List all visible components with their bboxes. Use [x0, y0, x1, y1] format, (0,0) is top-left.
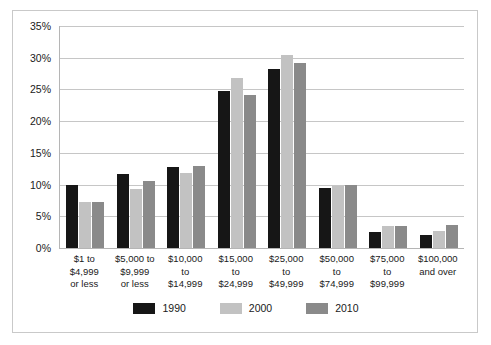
bar-1990[interactable] — [369, 232, 381, 248]
legend-item-2010[interactable]: 2010 — [306, 303, 358, 314]
plot-area — [59, 26, 464, 249]
x-axis-label-line: $4,999 — [60, 266, 109, 279]
bar-2000[interactable] — [130, 189, 142, 248]
legend-label: 2000 — [249, 303, 272, 314]
x-axis-category-label: $5,000 to$9,999or less — [110, 253, 161, 305]
y-axis: 0%5%10%15%20%25%30%35% — [13, 11, 57, 254]
x-axis-label-line: or less — [60, 278, 109, 291]
bar-1990[interactable] — [319, 188, 331, 248]
y-axis-tick-label: 15% — [13, 148, 51, 159]
bar-2010[interactable] — [193, 166, 205, 248]
x-axis-category-label: $100,000and over — [413, 253, 464, 305]
x-axis-label-line: to — [363, 266, 412, 279]
legend-item-1990[interactable]: 1990 — [133, 303, 185, 314]
x-axis-label-line: $1 to — [60, 253, 109, 266]
bar-group — [212, 26, 263, 248]
x-axis-label-line: $50,000 — [313, 253, 362, 266]
bar-group — [363, 26, 414, 248]
x-axis-label-line: $15,000 — [212, 253, 261, 266]
x-axis-label-line: $24,999 — [212, 278, 261, 291]
bar-group — [414, 26, 465, 248]
y-axis-tick-label: 10% — [13, 179, 51, 190]
x-axis-label-line: to — [212, 266, 261, 279]
x-axis-label-line: $9,999 — [111, 266, 160, 279]
bar-group — [313, 26, 364, 248]
bar-2000[interactable] — [180, 173, 192, 248]
x-axis-label-line: and over — [414, 266, 463, 279]
x-axis-category-label: $1 to$4,999or less — [59, 253, 110, 305]
bar-2000[interactable] — [433, 231, 445, 248]
legend-label: 2010 — [335, 303, 358, 314]
x-axis-label-line: $99,999 — [363, 278, 412, 291]
bar-2010[interactable] — [446, 225, 458, 248]
legend-swatch-icon — [220, 303, 242, 314]
bar-group — [161, 26, 212, 248]
bar-1990[interactable] — [218, 91, 230, 248]
legend-swatch-icon — [306, 303, 328, 314]
x-axis-category-label: $25,000to$49,999 — [261, 253, 312, 305]
x-axis-label-line: $75,000 — [363, 253, 412, 266]
bar-2010[interactable] — [345, 185, 357, 248]
x-axis-label-line: $100,000 — [414, 253, 463, 266]
x-axis-label-line: $49,999 — [262, 278, 311, 291]
bar-group — [262, 26, 313, 248]
bar-1990[interactable] — [420, 235, 432, 248]
y-axis-tick-label: 20% — [13, 116, 51, 127]
legend-item-2000[interactable]: 2000 — [220, 303, 272, 314]
bar-2000[interactable] — [332, 186, 344, 248]
bar-1990[interactable] — [167, 167, 179, 248]
bar-2000[interactable] — [281, 55, 293, 248]
bar-1990[interactable] — [66, 185, 78, 248]
bar-2000[interactable] — [231, 78, 243, 248]
bars-layer — [60, 26, 464, 248]
x-axis-label-line: $14,999 — [161, 278, 210, 291]
bar-2010[interactable] — [92, 202, 104, 248]
x-axis-category-label: $15,000to$24,999 — [211, 253, 262, 305]
bar-2000[interactable] — [382, 226, 394, 248]
bar-2000[interactable] — [79, 202, 91, 248]
bar-1990[interactable] — [117, 174, 129, 248]
legend-swatch-icon — [133, 303, 155, 314]
chart-frame: 0%5%10%15%20%25%30%35% $1 to$4,999or les… — [12, 10, 478, 333]
legend-label: 1990 — [162, 303, 185, 314]
bar-2010[interactable] — [395, 226, 407, 248]
x-axis-label-line: $25,000 — [262, 253, 311, 266]
y-axis-tick-label: 5% — [13, 211, 51, 222]
bar-2010[interactable] — [143, 181, 155, 248]
bar-1990[interactable] — [268, 69, 280, 248]
y-axis-tick-label: 30% — [13, 52, 51, 63]
x-axis-category-label: $75,000to$99,999 — [362, 253, 413, 305]
bar-group — [60, 26, 111, 248]
x-axis-label-line: $10,000 — [161, 253, 210, 266]
x-axis-label-line: or less — [111, 278, 160, 291]
bar-2010[interactable] — [294, 63, 306, 248]
x-axis-label-line: to — [262, 266, 311, 279]
x-axis-label-line: to — [161, 266, 210, 279]
chart-legend: 199020002010 — [13, 303, 479, 314]
bar-2010[interactable] — [244, 95, 256, 248]
y-axis-tick-label: 25% — [13, 84, 51, 95]
x-axis-label-line: $5,000 to — [111, 253, 160, 266]
y-axis-tick-label: 0% — [13, 243, 51, 254]
x-axis-category-label: $10,000to$14,999 — [160, 253, 211, 305]
x-axis-label-line: to — [313, 266, 362, 279]
chart-plot-wrapper: 0%5%10%15%20%25%30%35% $1 to$4,999or les… — [13, 11, 479, 334]
x-axis-label-line: $74,999 — [313, 278, 362, 291]
bar-group — [111, 26, 162, 248]
x-axis-category-label: $50,000to$74,999 — [312, 253, 363, 305]
y-axis-tick-label: 35% — [13, 21, 51, 32]
x-axis-labels: $1 to$4,999or less$5,000 to$9,999or less… — [59, 253, 463, 305]
